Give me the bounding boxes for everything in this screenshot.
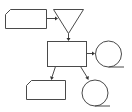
node-storage-right[interactable] [96,41,125,67]
edge-process-to-output-bottom [50,67,56,81]
node-storage-bottom[interactable] [82,80,110,106]
edge-input-to-merge [47,17,59,21]
node-process[interactable] [48,42,87,67]
edge-merge-to-process [67,34,71,42]
node-output-bottom[interactable] [27,81,66,100]
node-input-top[interactable] [6,10,47,29]
edge-process-to-storage-bottom [81,67,89,81]
edge-process-to-storage-right [87,52,96,56]
flowchart-canvas [0,0,132,112]
node-merge[interactable] [54,10,84,34]
